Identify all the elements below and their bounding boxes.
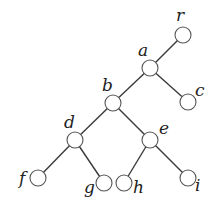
node-f — [30, 170, 46, 186]
tree-svg: rabcdefghi — [0, 0, 216, 211]
node-label-d: d — [64, 112, 75, 132]
node-label-c: c — [195, 80, 205, 100]
node-label-b: b — [102, 75, 113, 95]
node-h — [116, 175, 132, 191]
node-c — [180, 94, 196, 110]
node-label-e: e — [159, 118, 169, 138]
node-label-g: g — [84, 177, 95, 197]
node-e — [142, 132, 158, 148]
node-label-f: f — [17, 168, 28, 188]
node-r — [175, 27, 191, 43]
nodes-group — [30, 27, 196, 191]
node-label-i: i — [195, 175, 200, 195]
node-label-a: a — [138, 40, 148, 60]
node-d — [67, 132, 83, 148]
node-label-h: h — [133, 177, 144, 197]
node-a — [142, 60, 158, 76]
node-label-r: r — [176, 5, 185, 25]
tree-diagram: rabcdefghi — [0, 0, 216, 211]
node-g — [96, 175, 112, 191]
node-b — [105, 95, 121, 111]
node-i — [180, 170, 196, 186]
